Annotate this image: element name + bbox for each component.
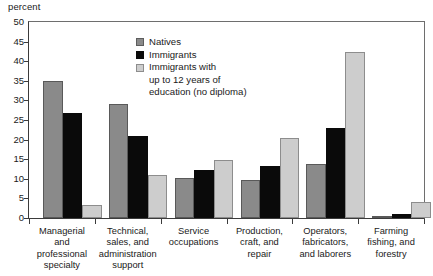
bar	[392, 214, 412, 218]
bar-group	[292, 22, 358, 218]
bar	[63, 113, 83, 218]
y-axis-unit-label: percent	[8, 1, 40, 12]
y-axis-tick-label: 30	[2, 96, 24, 106]
bar	[411, 202, 431, 218]
legend-label-continuation-line-2: education (no diploma)	[136, 86, 247, 99]
x-axis-category-label-line: administration	[89, 249, 167, 260]
y-axis-tick-mark	[24, 140, 29, 141]
y-axis-tick-label: 45	[2, 37, 24, 47]
bar-group	[29, 22, 95, 218]
x-axis-tick-mark	[227, 219, 228, 224]
y-axis-tick-mark	[24, 42, 29, 43]
bar-group	[358, 22, 424, 218]
y-axis-tick-mark	[24, 81, 29, 82]
x-axis-tick-mark	[292, 219, 293, 224]
y-axis-tick-label: 35	[2, 76, 24, 86]
x-axis-category-label-line: support	[89, 260, 167, 271]
y-axis-tick-label: 25	[2, 115, 24, 125]
y-axis-tick-mark	[24, 100, 29, 101]
bar	[109, 104, 129, 218]
bar	[194, 170, 214, 218]
y-axis-tick-label: 20	[2, 135, 24, 145]
x-axis-category-label-line: forestry	[352, 249, 430, 260]
legend-label-immigrants-low-education: Immigrants with	[149, 61, 216, 74]
y-axis-tick-label: 50	[2, 17, 24, 27]
bar	[43, 81, 63, 218]
legend-swatch-icon-natives	[136, 38, 144, 46]
bar	[326, 128, 346, 218]
y-axis-tick-mark	[24, 179, 29, 180]
bar	[241, 180, 261, 218]
x-axis-tick-mark	[358, 219, 359, 224]
y-axis-tick-label: 15	[2, 154, 24, 164]
bar	[260, 166, 280, 218]
y-axis-tick-mark	[24, 159, 29, 160]
x-axis-tick-mark	[161, 219, 162, 224]
legend-swatch-icon-immigrants	[136, 51, 144, 59]
x-axis-tick-mark	[95, 219, 96, 224]
legend-item-natives: Natives	[136, 36, 247, 49]
y-axis-tick-label: 10	[2, 174, 24, 184]
bar	[128, 136, 148, 218]
legend-label-immigrants: Immigrants	[149, 49, 196, 62]
x-axis-category-label-line: fishing, and	[352, 237, 430, 248]
bar	[372, 216, 392, 218]
y-axis-tick-mark	[24, 120, 29, 121]
x-axis-tick-mark	[424, 219, 425, 224]
y-axis-tick-mark	[24, 61, 29, 62]
legend-swatch-icon-immigrants-low-education	[136, 64, 144, 72]
chart-legend: Natives Immigrants Immigrants with up to…	[136, 36, 247, 99]
x-axis-category-label-line: Farming	[352, 226, 430, 237]
y-axis-tick-label: 0	[2, 213, 24, 223]
bar	[175, 178, 195, 218]
bar	[306, 164, 326, 218]
x-axis-tick-mark	[29, 219, 30, 224]
legend-label-natives: Natives	[149, 36, 181, 49]
legend-item-immigrants: Immigrants	[136, 49, 247, 62]
x-axis-category-label: Farmingfishing, andforestry	[352, 226, 430, 260]
y-axis-tick-mark	[24, 218, 29, 219]
legend-item-immigrants-low-education: Immigrants with	[136, 61, 247, 74]
y-axis-tick-label: 5	[2, 194, 24, 204]
y-axis-tick-label: 40	[2, 56, 24, 66]
legend-label-continuation-line-1: up to 12 years of	[136, 74, 247, 87]
y-axis-tick-mark	[24, 198, 29, 199]
